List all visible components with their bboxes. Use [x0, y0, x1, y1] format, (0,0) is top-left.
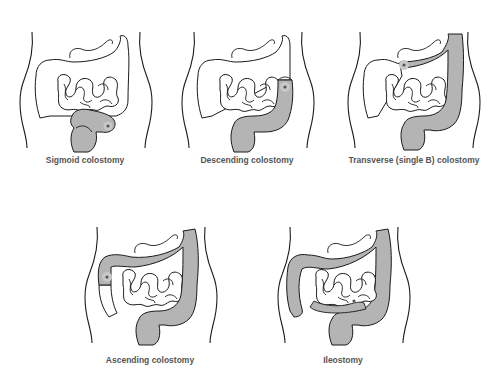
descending-colostomy-illustration	[172, 10, 322, 160]
stoma-marker	[106, 124, 109, 127]
ileostomy-illustration	[268, 205, 418, 355]
stoma-marker	[352, 299, 355, 302]
stoma-marker	[283, 85, 286, 88]
caption-descending-colostomy: Descending colostomy	[172, 155, 322, 165]
caption-transverse-colostomy: Transverse (single B) colostomy	[334, 155, 494, 165]
panel-ileostomy: Ileostomy	[268, 205, 418, 355]
panel-transverse-colostomy: Transverse (single B) colostomy	[338, 10, 493, 160]
transverse-colostomy-illustration	[338, 10, 493, 160]
panel-descending-colostomy: Descending colostomy	[172, 10, 322, 160]
stoma-marker	[105, 275, 108, 278]
panel-ascending-colostomy: Ascending colostomy	[75, 205, 225, 355]
caption-ileostomy: Ileostomy	[268, 355, 418, 365]
caption-sigmoid-colostomy: Sigmoid colostomy	[10, 155, 160, 165]
panel-sigmoid-colostomy: Sigmoid colostomy	[10, 10, 160, 160]
sigmoid-colostomy-illustration	[10, 10, 160, 160]
ascending-colostomy-illustration	[75, 205, 225, 355]
stoma-marker	[402, 63, 405, 66]
caption-ascending-colostomy: Ascending colostomy	[75, 355, 225, 365]
